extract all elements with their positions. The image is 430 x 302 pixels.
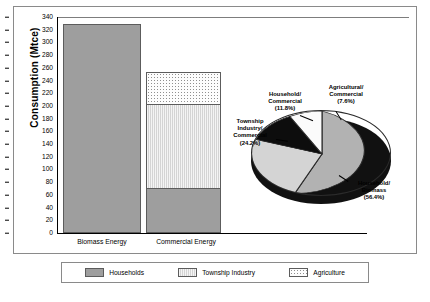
y-tick-label: 60 <box>9 192 57 199</box>
y-tick-label: 100 <box>9 166 57 173</box>
pie-label-township-commercial: Township Industry/ Commercial (24.2%) <box>224 118 276 147</box>
pie-label-line2: Industry/ <box>238 125 263 131</box>
y-tick-mark <box>5 42 9 43</box>
y-tick-mark <box>5 17 9 18</box>
pie-label-line1: Township <box>236 118 263 124</box>
y-tick-mark <box>5 144 9 145</box>
y-tick-label: 40 <box>9 204 57 211</box>
y-tick-mark <box>5 131 9 132</box>
segment-agriculture <box>146 72 221 105</box>
bar-biomass-energy <box>63 24 141 233</box>
legend-item-households: Households <box>85 268 144 277</box>
bar-commercial-energy <box>146 72 221 233</box>
y-tick-mark <box>5 195 9 196</box>
y-tick-label: 260 <box>9 65 57 72</box>
x-label-commercial-energy: Commercial Energy <box>126 238 246 245</box>
pie-label-household-biomass: Household/ Biomass (56.4%) <box>348 180 400 202</box>
pie-label-line4: (24.2%) <box>240 140 261 146</box>
segment-households <box>146 189 221 233</box>
legend-item-agriculture: Agriculture <box>289 268 345 277</box>
legend-label: Township Industry <box>202 269 255 276</box>
y-tick-mark <box>5 68 9 69</box>
x-axis-line <box>57 233 367 234</box>
y-tick-label: 0 <box>9 230 57 237</box>
y-tick-mark <box>5 55 9 56</box>
segment-township-industry <box>146 105 221 189</box>
pie-label-line1: Household/ <box>269 91 301 97</box>
y-tick-mark <box>5 118 9 119</box>
y-tick-mark <box>5 220 9 221</box>
y-tick-mark <box>5 156 9 157</box>
pie-label-line3: (7.6%) <box>337 98 354 104</box>
y-tick-label: 300 <box>9 39 57 46</box>
chart-figure: Consumption (Mtce) 340320300280260240220… <box>0 0 430 302</box>
legend-label: Households <box>109 269 144 276</box>
y-tick-label: 140 <box>9 141 57 148</box>
y-tick-mark <box>5 80 9 81</box>
y-tick-label: 220 <box>9 90 57 97</box>
y-tick-mark <box>5 233 9 234</box>
pie-label-line1: Agricultural/ <box>329 84 364 90</box>
y-tick-label: 200 <box>9 103 57 110</box>
y-tick-label: 20 <box>9 217 57 224</box>
agriculture-swatch <box>289 268 308 277</box>
pie-chart: Agricultural/ Commercial (7.6%) Househol… <box>240 96 410 216</box>
pie-label-line3: (11.8%) <box>275 105 295 111</box>
pie-label-line1: Household/ <box>358 180 390 186</box>
y-tick-mark <box>5 29 9 30</box>
pie-label-line3: Commercial <box>233 132 267 138</box>
y-tick-label: 240 <box>9 77 57 84</box>
y-tick-label: 340 <box>9 14 57 21</box>
legend-item-township-industry: Township Industry <box>178 268 255 277</box>
legend-label: Agriculture <box>313 269 345 276</box>
y-tick-label: 180 <box>9 115 57 122</box>
bar-plot-area: 3403203002802602402202001801601401201008… <box>57 17 240 233</box>
pie-label-line2: Biomass <box>362 187 387 193</box>
pie-label-line2: Commercial <box>329 91 363 97</box>
township-industry-swatch <box>178 268 197 277</box>
y-tick-label: 80 <box>9 179 57 186</box>
y-tick-label: 320 <box>9 26 57 33</box>
y-tick-mark <box>5 93 9 94</box>
y-tick-label: 280 <box>9 52 57 59</box>
y-tick-mark <box>5 207 9 208</box>
chart-legend: Households Township Industry Agriculture <box>61 262 369 283</box>
pie-label-agricultural-commercial: Agricultural/ Commercial (7.6%) <box>318 84 374 106</box>
y-tick-label: 160 <box>9 128 57 135</box>
y-tick-label: 120 <box>9 153 57 160</box>
y-tick-mark <box>5 169 9 170</box>
households-swatch <box>85 268 104 277</box>
y-tick-mark <box>5 106 9 107</box>
pie-label-line3: (56.4%) <box>364 194 385 200</box>
pie-label-household-commercial: Household/ Commercial (11.8%) <box>258 91 312 113</box>
y-tick-mark <box>5 182 9 183</box>
pie-label-line2: Commercial <box>268 98 302 104</box>
